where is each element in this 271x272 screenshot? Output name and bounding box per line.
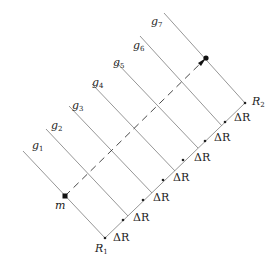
label-g7: g7 bbox=[151, 15, 163, 29]
label-g3: g3 bbox=[72, 99, 84, 113]
label-g5: g5 bbox=[113, 56, 125, 70]
label-m: m bbox=[55, 199, 65, 212]
label-delta-r: ΔR bbox=[153, 191, 170, 204]
label-delta-r: ΔR bbox=[133, 211, 150, 224]
diagram-canvas: g1 g2 g3 g4 g5 g6 g7 m R1 R2 ΔR ΔR ΔR ΔR… bbox=[0, 0, 271, 272]
label-g4: g4 bbox=[92, 76, 104, 90]
line-g5 bbox=[116, 62, 198, 148]
point-end-dot bbox=[203, 55, 208, 60]
label-delta-r: ΔR bbox=[214, 131, 231, 144]
label-R2: R2 bbox=[251, 95, 265, 109]
label-delta-r: ΔR bbox=[113, 231, 130, 244]
label-R1: R1 bbox=[94, 242, 108, 256]
label-delta-r: ΔR bbox=[234, 111, 251, 124]
line-g3 bbox=[69, 106, 152, 193]
label-g2: g2 bbox=[51, 119, 63, 133]
label-delta-r: ΔR bbox=[194, 151, 211, 164]
point-m-dot bbox=[63, 194, 68, 199]
label-delta-r: ΔR bbox=[173, 171, 190, 184]
line-g6 bbox=[140, 36, 222, 126]
label-g6: g6 bbox=[133, 39, 145, 53]
label-g1: g1 bbox=[32, 139, 44, 153]
